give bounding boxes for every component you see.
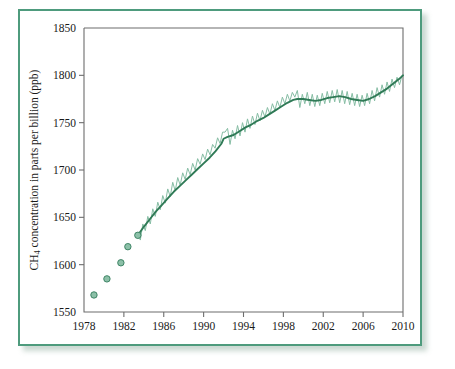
y-tick-label: 1700 xyxy=(53,164,76,176)
figure-root: 1550160016501700175018001850197819821986… xyxy=(0,0,455,369)
data-point-marker xyxy=(135,232,141,238)
data-point-marker xyxy=(125,243,131,249)
y-tick-label: 1550 xyxy=(53,306,76,318)
x-tick-label: 2002 xyxy=(312,320,335,332)
x-tick-label: 2006 xyxy=(352,320,375,332)
y-axis-title-text: CH4 concentration in parts per billion (… xyxy=(28,69,42,270)
methane-concentration-chart: 1550160016501700175018001850197819821986… xyxy=(20,11,420,344)
y-tick-label: 1600 xyxy=(53,259,76,271)
x-axis-title: Year xyxy=(233,342,254,344)
x-tick-label: 2010 xyxy=(392,320,415,332)
axis-lines xyxy=(84,28,403,312)
x-tick-label: 1982 xyxy=(112,320,135,332)
y-tick-label: 1850 xyxy=(53,22,76,34)
data-point-marker xyxy=(104,276,110,282)
y-tick-label: 1650 xyxy=(53,211,76,223)
data-point-marker xyxy=(91,292,97,298)
plot-box-outline xyxy=(84,28,403,312)
y-axis-title: CH4 concentration in parts per billion (… xyxy=(28,69,42,270)
x-tick-label: 1978 xyxy=(73,320,96,332)
x-tick-label: 1998 xyxy=(272,320,295,332)
y-tick-label: 1800 xyxy=(53,69,76,81)
y-tick-label: 1750 xyxy=(53,117,76,129)
figure-border-frame: 1550160016501700175018001850197819821986… xyxy=(18,9,422,346)
x-tick-label: 1994 xyxy=(232,320,255,332)
x-tick-label: 1990 xyxy=(192,320,215,332)
x-tick-label: 1986 xyxy=(152,320,175,332)
data-point-marker xyxy=(118,260,124,266)
